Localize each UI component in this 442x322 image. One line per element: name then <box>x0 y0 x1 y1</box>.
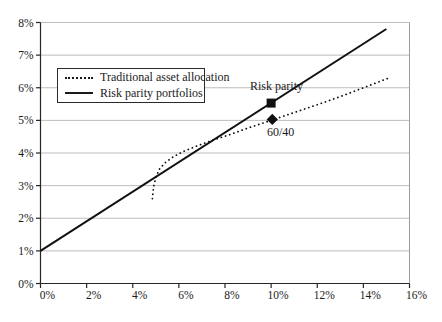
dotted-line-sample-icon <box>65 77 93 79</box>
y-tick-label: 5% <box>18 114 34 126</box>
x-tick-label: 16% <box>406 289 428 301</box>
axis-ticks <box>36 23 410 289</box>
x-tick-label: 12% <box>314 289 336 301</box>
x-axis-labels: 0%2%4%6%8%10%12%14%16% <box>40 289 428 301</box>
y-tick-label: 0% <box>18 278 34 290</box>
risk-parity-marker <box>267 99 276 108</box>
legend-label-risk-parity: Risk parity portfolios <box>100 87 203 100</box>
solid-line-sample-icon <box>65 92 93 94</box>
sixty-forty-marker <box>267 114 278 125</box>
data-series <box>41 29 389 251</box>
y-tick-label: 1% <box>18 245 34 257</box>
x-tick-label: 14% <box>360 289 382 301</box>
y-tick-label: 6% <box>18 82 34 94</box>
y-tick-label: 8% <box>18 17 34 29</box>
data-markers <box>267 99 278 125</box>
x-tick-label: 6% <box>178 289 194 301</box>
plot-area: 0%2%4%6%8%10%12%14%16% 0%1%2%3%4%5%6%7%8… <box>0 0 442 322</box>
y-tick-label: 7% <box>18 49 34 61</box>
y-tick-label: 3% <box>18 180 34 192</box>
risk-parity-line <box>41 29 387 251</box>
x-tick-label: 2% <box>86 289 102 301</box>
legend: Traditional asset allocation Risk parity… <box>57 68 205 103</box>
legend-item-risk-parity: Risk parity portfolios <box>65 86 204 102</box>
x-tick-label: 8% <box>224 289 240 301</box>
risk-return-chart: 0%2%4%6%8%10%12%14%16% 0%1%2%3%4%5%6%7%8… <box>0 0 442 322</box>
y-tick-label: 2% <box>18 212 34 224</box>
risk-parity-label: Risk parity <box>250 80 303 92</box>
x-tick-label: 0% <box>40 289 56 301</box>
legend-label-traditional: Traditional asset allocation <box>100 71 230 84</box>
y-tick-label: 4% <box>18 147 34 159</box>
y-axis-labels: 0%1%2%3%4%5%6%7%8% <box>18 17 34 290</box>
x-tick-label: 4% <box>132 289 148 301</box>
x-tick-label: 10% <box>268 289 290 301</box>
legend-item-traditional: Traditional asset allocation <box>65 70 204 86</box>
sixty-forty-label: 60/40 <box>267 126 294 138</box>
